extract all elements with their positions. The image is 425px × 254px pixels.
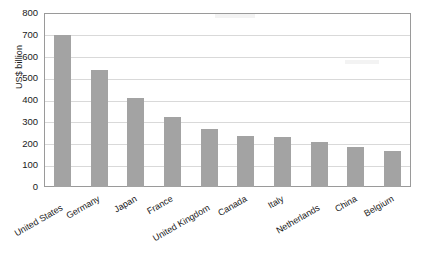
bar-chart: US$ billion 0100200300400500600700800 Un…	[0, 0, 425, 254]
x-axis-tick-labels: United StatesGermanyJapanFranceUnited Ki…	[0, 0, 425, 254]
